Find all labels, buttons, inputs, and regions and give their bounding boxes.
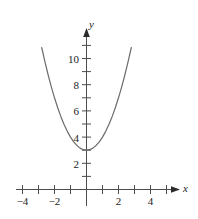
y-tick-label-2: 2 [74,159,80,170]
y-tick-label-8: 8 [74,80,80,91]
x-axis-arrow-icon [171,186,180,193]
parabola-graph-figure: −4 −2 2 4 2 4 6 8 10 x y [0,0,198,219]
x-tick-label-4: 4 [148,196,154,207]
y-axis-label: y [89,19,94,30]
x-tick-label-neg4: −4 [17,196,29,207]
y-tick-label-4: 4 [74,133,80,144]
x-tick-label-2: 2 [116,196,122,207]
y-tick-label-6: 6 [74,106,80,117]
y-tick-label-10: 10 [68,54,79,65]
x-axis-label: x [183,183,188,194]
plot-canvas [0,0,198,219]
x-tick-label-neg2: −2 [49,196,61,207]
